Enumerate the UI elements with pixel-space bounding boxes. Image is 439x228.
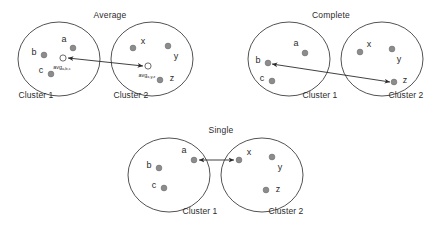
average-cluster-caption-2: Cluster 2 [114, 90, 149, 100]
average-linkage-arrow [68, 58, 143, 66]
complete-cluster-caption-2: Cluster 2 [389, 90, 424, 100]
single-point-label-c: c [152, 180, 157, 190]
complete-point-a [302, 50, 308, 56]
single-point-x [236, 157, 242, 163]
average-cluster-2-circle [111, 22, 193, 96]
complete-point-c [269, 78, 275, 84]
single-point-label-a: a [181, 145, 186, 155]
average-centroid-avg-right [145, 63, 151, 69]
average-point-label-a: a [61, 34, 66, 44]
complete-point-z [391, 79, 397, 85]
average-centroid-avg-left [60, 55, 66, 61]
average-point-z [157, 77, 163, 83]
complete-point-y [389, 46, 395, 52]
single-point-c [161, 185, 167, 191]
average-point-label-c: c [39, 65, 44, 75]
single-point-z [263, 187, 269, 193]
complete-linkage-arrow [272, 64, 390, 82]
average-centroid-label-avg-right: avgx,y,z [139, 72, 156, 78]
single-panel-title: Single [209, 125, 234, 135]
average-cluster-caption-1: Cluster 1 [19, 90, 54, 100]
panel-single [128, 138, 303, 212]
average-point-a [70, 45, 76, 51]
single-point-label-z: z [276, 184, 281, 194]
complete-cluster-caption-1: Cluster 1 [303, 90, 338, 100]
complete-point-label-z: z [403, 75, 408, 85]
complete-point-label-c: c [260, 73, 265, 83]
average-point-label-x: x [141, 36, 146, 46]
single-point-a [191, 157, 197, 163]
average-cluster-1-circle [18, 22, 100, 96]
panel-average [18, 22, 193, 96]
avg-label-subscript: x,y,z [147, 74, 155, 79]
complete-panel-title: Complete [312, 10, 350, 20]
average-point-x [130, 45, 136, 51]
average-point-label-z: z [170, 73, 175, 83]
average-point-b [41, 52, 47, 58]
complete-point-label-a: a [293, 38, 298, 48]
linkage-methods-figure: AverageCluster 1Cluster 2abcxyzavga,b,ca… [0, 0, 439, 228]
avg-label-subscript: a,b,c [62, 66, 71, 71]
complete-point-label-y: y [397, 54, 402, 64]
single-cluster-caption-1: Cluster 1 [183, 206, 218, 216]
average-point-y [165, 43, 171, 49]
average-point-c [48, 71, 54, 77]
average-point-label-b: b [31, 47, 36, 57]
average-centroid-label-avg-left: avga,b,c [53, 64, 71, 70]
complete-point-b [265, 60, 271, 66]
avg-label-base: avg [53, 64, 62, 70]
single-point-b [156, 165, 162, 171]
single-cluster-1-circle [128, 138, 210, 212]
avg-label-base: avg [139, 72, 148, 78]
complete-point-label-x: x [367, 39, 372, 49]
complete-cluster-2-circle [341, 22, 423, 96]
single-point-label-y: y [278, 162, 283, 172]
single-cluster-2-circle [221, 138, 303, 212]
single-point-y [269, 154, 275, 160]
single-cluster-caption-2: Cluster 2 [269, 206, 304, 216]
single-point-label-b: b [146, 160, 151, 170]
complete-point-x [357, 49, 363, 55]
average-panel-title: Average [94, 10, 127, 20]
single-point-label-x: x [247, 147, 252, 157]
average-point-label-y: y [174, 51, 179, 61]
complete-point-label-b: b [255, 55, 260, 65]
